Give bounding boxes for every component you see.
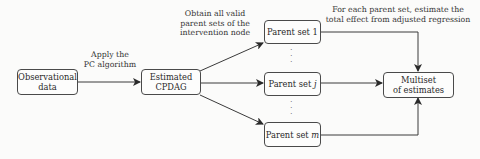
parent-set-j-node: Parent set j [264,72,321,96]
edge-label-obtain-parent-sets: Obtain all valid parent sets of the inte… [176,9,254,38]
label-line: PC algorithm [84,60,136,69]
label-line: parent sets of the [180,19,250,28]
label-line: Obtain all valid [185,9,245,18]
edge-label-pc-algorithm: Apply the PC algorithm [82,50,138,69]
node-label: Observational [18,72,77,82]
edge-label-estimate-effect: For each parent set, estimate the total … [323,5,473,24]
label-line: intervention node [180,28,250,37]
parent-set-m-node: Parent set m [264,122,321,147]
observational-data-node: Observational data [17,69,78,95]
ellipsis-dots: ··· [290,47,292,65]
node-label: Multiset [401,75,436,85]
node-label: Estimated [150,72,193,82]
node-label-prefix: Parent set [268,79,314,89]
node-label: Parent set j [268,79,316,89]
multiset-of-estimates-node: Multiset of estimates [383,72,454,98]
node-label: data [38,82,57,92]
estimated-cpdag-node: Estimated CPDAG [141,69,201,95]
label-line: Apply the [91,50,129,59]
node-label: Parent set m [266,130,319,140]
node-label-var: j [314,79,317,89]
node-label-var: m [311,130,319,140]
label-line: total effect from adjusted regression [326,15,471,24]
label-line: For each parent set, estimate the [332,5,464,14]
node-label: CPDAG [155,82,186,92]
node-label: of estimates [393,85,444,95]
parent-set-1-node: Parent set 1 [264,20,321,44]
node-label: Parent set 1 [267,27,318,37]
ellipsis-dots: ··· [290,99,292,117]
node-label-prefix: Parent set [266,130,312,140]
